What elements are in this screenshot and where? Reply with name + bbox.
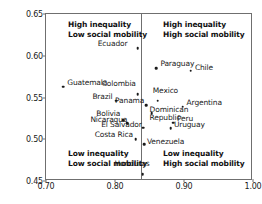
data-point	[170, 127, 173, 130]
y-tick-mark	[43, 139, 46, 140]
point-label: Mexico	[153, 87, 178, 95]
plot-area: 0.450.500.550.600.65 0.700.800.901.00 Hi…	[45, 13, 252, 180]
quadrant-label-bottom-right: Low inequalityHigh social mobility	[163, 149, 245, 169]
y-tick-label: 0.50	[26, 135, 43, 144]
data-point	[145, 104, 148, 107]
y-tick-label: 0.65	[26, 10, 43, 19]
point-label: Uruguay	[174, 121, 205, 129]
point-label: El Salvador	[101, 121, 141, 129]
quadrant-label-top-left: High inequalityLow social mobility	[68, 20, 147, 40]
y-tick-label: 0.60	[26, 51, 43, 60]
y-tick-label: 0.55	[26, 93, 43, 102]
x-tick-label: 0.80	[106, 182, 123, 191]
data-point	[156, 100, 159, 103]
data-point	[155, 67, 158, 70]
quadrant-line-1: Low inequality	[68, 149, 147, 159]
quadrant-line-1: Low inequality	[163, 149, 245, 159]
point-label: Argentina	[187, 99, 222, 107]
data-point	[136, 47, 139, 50]
quadrant-line-2: High social mobility	[163, 159, 245, 169]
scatter-chart: Adjusted Gini coefficient (0–1 scale) 0.…	[0, 0, 262, 204]
quadrant-line-2: High social mobility	[163, 30, 245, 40]
quadrant-line-1: High inequality	[68, 20, 147, 30]
point-label: Chile	[195, 64, 213, 72]
point-label: Brazil	[92, 93, 112, 101]
data-point	[62, 85, 65, 88]
data-point	[141, 173, 144, 176]
y-tick-mark	[43, 14, 46, 15]
x-tick-label: 0.90	[175, 182, 192, 191]
data-point	[134, 138, 137, 141]
point-label: Paraguay	[160, 60, 194, 68]
x-tick-label: 0.70	[37, 182, 54, 191]
point-label: Honduras	[115, 160, 150, 168]
quadrant-line-1: High inequality	[163, 20, 245, 30]
data-point	[143, 143, 146, 146]
point-label: Costa Rica	[95, 131, 133, 139]
point-label: Panama	[115, 97, 144, 105]
data-point	[190, 69, 193, 72]
y-tick-mark	[43, 55, 46, 56]
point-label: Colombia	[102, 80, 136, 88]
point-label: Ecuador	[98, 40, 128, 48]
x-tick-label: 1.00	[244, 182, 261, 191]
point-label: Venezuela	[147, 138, 184, 146]
quadrant-label-top-right: High inequalityHigh social mobility	[163, 20, 245, 40]
data-point	[142, 126, 145, 129]
y-tick-mark	[43, 97, 46, 98]
